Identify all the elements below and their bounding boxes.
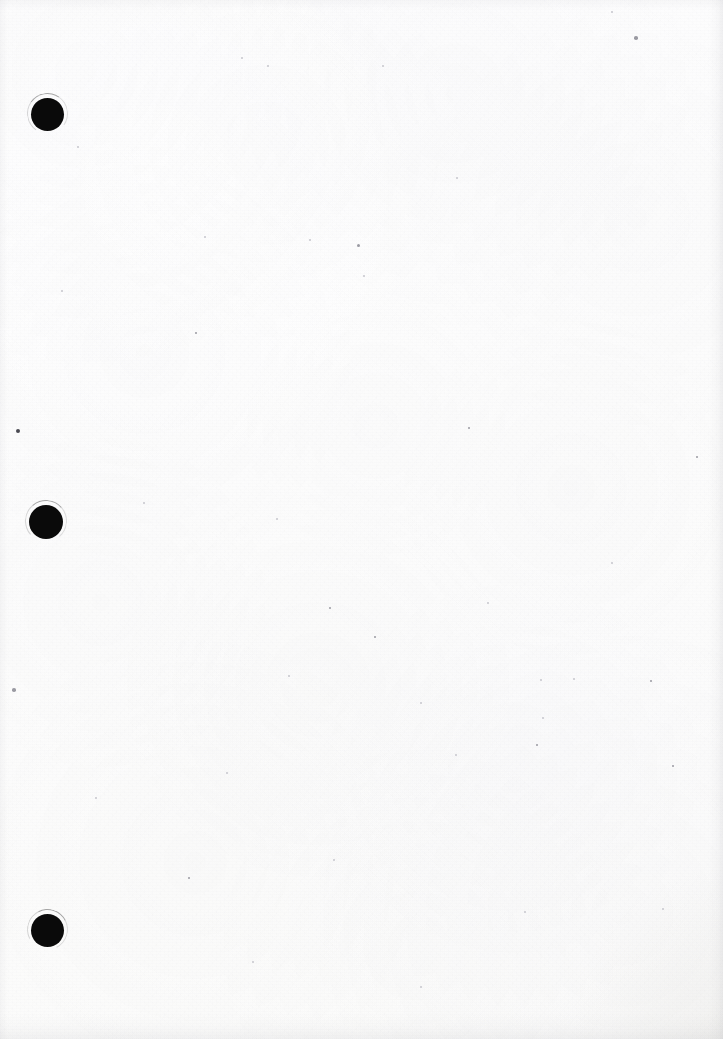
top-punch-hole bbox=[25, 92, 70, 137]
page-top-edge-shadow bbox=[0, 0, 723, 10]
scanned-page bbox=[0, 0, 723, 1039]
page-left-edge-shadow bbox=[0, 0, 8, 1039]
dust-speck bbox=[12, 688, 16, 692]
top-punch-hole-aperture bbox=[31, 98, 64, 131]
bottom-punch-hole bbox=[25, 908, 70, 953]
middle-punch-hole-aperture bbox=[29, 505, 63, 539]
middle-punch-hole bbox=[23, 499, 69, 545]
dust-speck bbox=[634, 36, 638, 40]
bottom-punch-hole-aperture bbox=[31, 914, 64, 947]
page-content-area bbox=[90, 60, 690, 980]
